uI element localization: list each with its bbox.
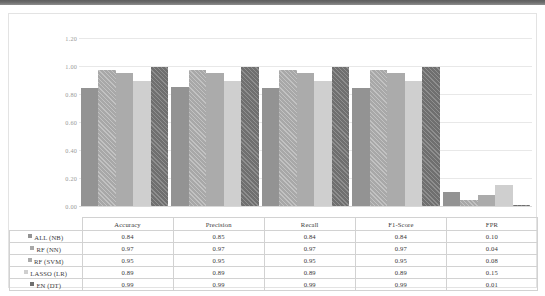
legend-color-swatch-icon (24, 270, 28, 274)
column-header: F1-Score (355, 218, 446, 231)
y-axis-tick-label: 1.00 (43, 63, 77, 70)
bar (513, 205, 531, 206)
legend-color-swatch-icon (28, 258, 32, 262)
data-cell: 0.97 (173, 243, 264, 255)
data-cell: 0.95 (82, 255, 173, 267)
bar (81, 88, 99, 206)
table-corner-cell (10, 218, 83, 231)
table-row: EN (DT)0.990.990.990.990.01 (10, 279, 538, 291)
bar-group (351, 14, 442, 218)
data-cell: 0.10 (446, 231, 537, 243)
data-cell: 0.95 (355, 255, 446, 267)
legend-color-swatch-icon (30, 282, 34, 286)
legend-label: ALL (NB) (34, 233, 63, 240)
bar-group (170, 14, 261, 218)
column-header: Accuracy (82, 218, 173, 231)
bar (206, 73, 224, 206)
data-cell: 0.99 (355, 279, 446, 291)
data-cell: 0.89 (264, 267, 355, 279)
data-cell: 0.89 (355, 267, 446, 279)
bar (189, 70, 207, 206)
legend-label: RF (SVM) (34, 257, 64, 264)
table-row: ALL (NB)0.840.850.840.840.10 (10, 231, 538, 243)
bar (370, 70, 388, 206)
bar-groups (79, 14, 532, 218)
legend-label: RF (NN) (36, 245, 61, 252)
legend-label: LASSO (LR) (30, 269, 67, 276)
column-header: Recall (264, 218, 355, 231)
data-cell: 0.15 (446, 267, 537, 279)
bar (495, 185, 513, 206)
data-table: AccuracyPrecisionRecallF1-ScoreFPRALL (N… (9, 217, 538, 291)
data-cell: 0.97 (82, 243, 173, 255)
data-cell: 0.99 (82, 279, 173, 291)
legend-entry[interactable]: ALL (NB) (10, 231, 83, 243)
bar (133, 81, 151, 206)
bar-group (260, 14, 351, 218)
bar (241, 67, 259, 206)
top-banner-strip (0, 0, 545, 5)
legend-color-swatch-icon (28, 234, 32, 238)
y-axis-tick-label: 0.20 (43, 175, 77, 182)
data-cell: 0.84 (355, 231, 446, 243)
data-cell: 0.84 (264, 231, 355, 243)
bar (224, 81, 242, 206)
table-row: RF (SVM)0.950.950.950.950.08 (10, 255, 538, 267)
bar-group (441, 14, 532, 218)
bar (405, 81, 423, 206)
data-cell: 0.99 (264, 279, 355, 291)
bar (443, 192, 461, 206)
y-axis-tick-label: 0.00 (43, 203, 77, 210)
y-axis-tick-label: 0.60 (43, 119, 77, 126)
bar-group (79, 14, 170, 218)
data-table-wrapper: AccuracyPrecisionRecallF1-ScoreFPRALL (N… (9, 217, 538, 291)
bar (314, 81, 332, 206)
legend-entry[interactable]: LASSO (LR) (10, 267, 83, 279)
data-cell: 0.95 (264, 255, 355, 267)
bar (151, 67, 169, 206)
table-row: LASSO (LR)0.890.890.890.890.15 (10, 267, 538, 279)
bar (387, 73, 405, 206)
bar (116, 73, 134, 206)
bar (262, 88, 280, 206)
bar (352, 88, 370, 206)
bar (478, 195, 496, 206)
legend-entry[interactable]: RF (SVM) (10, 255, 83, 267)
legend-label: EN (DT) (36, 281, 61, 288)
bar (171, 87, 189, 206)
bar (279, 70, 297, 206)
data-cell: 0.08 (446, 255, 537, 267)
data-cell: 0.99 (173, 279, 264, 291)
data-cell: 0.89 (82, 267, 173, 279)
data-cell: 0.97 (355, 243, 446, 255)
table-header-row: AccuracyPrecisionRecallF1-ScoreFPR (10, 218, 538, 231)
bar (332, 67, 350, 206)
plot-area: 1.201.000.800.600.400.200.00 (9, 14, 538, 218)
data-cell: 0.04 (446, 243, 537, 255)
legend-entry[interactable]: EN (DT) (10, 279, 83, 291)
y-axis: 1.201.000.800.600.400.200.00 (29, 14, 77, 218)
bar (460, 200, 478, 206)
column-header: FPR (446, 218, 537, 231)
data-cell: 0.84 (82, 231, 173, 243)
table-row: RF (NN)0.970.970.970.970.04 (10, 243, 538, 255)
data-cell: 0.01 (446, 279, 537, 291)
y-axis-tick-label: 0.80 (43, 91, 77, 98)
data-cell: 0.97 (264, 243, 355, 255)
y-axis-tick-label: 0.40 (43, 147, 77, 154)
legend-entry[interactable]: RF (NN) (10, 243, 83, 255)
data-cell: 0.89 (173, 267, 264, 279)
data-cell: 0.85 (173, 231, 264, 243)
bar (422, 67, 440, 206)
y-axis-tick-label: 1.20 (43, 35, 77, 42)
legend-color-swatch-icon (30, 246, 34, 250)
column-header: Precision (173, 218, 264, 231)
data-cell: 0.95 (173, 255, 264, 267)
chart-figure: 1.201.000.800.600.400.200.00 AccuracyPre… (8, 13, 537, 288)
bar (297, 73, 315, 206)
bar (98, 70, 116, 206)
